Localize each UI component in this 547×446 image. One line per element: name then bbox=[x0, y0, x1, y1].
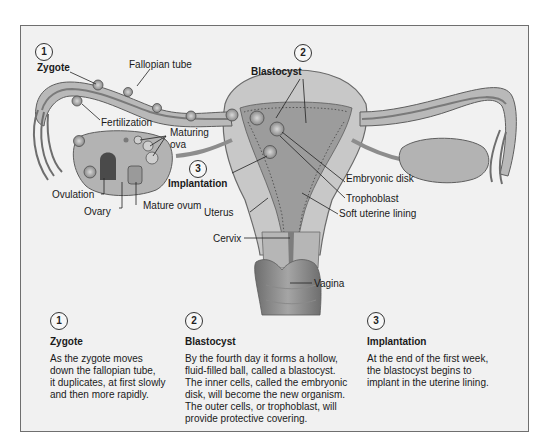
label-fallopian-tube: Fallopian tube bbox=[129, 59, 192, 70]
label-soft-uterine-lining: Soft uterine lining bbox=[339, 208, 416, 219]
stage-body: As the zygote moves down the fallopian t… bbox=[50, 353, 166, 401]
stage-title: Zygote bbox=[50, 336, 166, 347]
stage-number-2: 2 bbox=[185, 312, 203, 330]
stage-description-blastocyst: 2 Blastocyst By the fourth day it forms … bbox=[185, 312, 347, 425]
stage-number-1: 1 bbox=[50, 312, 68, 330]
stage-number-3: 3 bbox=[367, 312, 385, 330]
label-ovulation: Ovulation bbox=[52, 189, 94, 200]
stage-description-zygote: 1 Zygote As the zygote moves down the fa… bbox=[50, 312, 166, 401]
stage-marker-3: 3 bbox=[189, 160, 207, 178]
stage-marker-1: 1 bbox=[35, 43, 53, 61]
label-implantation: Implantation bbox=[168, 178, 227, 189]
label-ovary: Ovary bbox=[84, 206, 111, 217]
stage-title: Implantation bbox=[367, 336, 489, 347]
label-trophoblast: Trophoblast bbox=[346, 193, 398, 204]
label-cervix: Cervix bbox=[213, 233, 241, 244]
stage-description-implantation: 3 Implantation At the end of the first w… bbox=[367, 312, 489, 389]
label-ova: ova bbox=[170, 139, 186, 150]
label-vagina: Vagina bbox=[314, 278, 344, 289]
stage-marker-2: 2 bbox=[294, 44, 312, 62]
left-ovary bbox=[73, 131, 172, 196]
vagina-shape bbox=[255, 260, 321, 315]
label-zygote: Zygote bbox=[37, 62, 70, 73]
stage-body: At the end of the first week, the blasto… bbox=[367, 353, 489, 389]
stage-body: By the fourth day it forms a hollow, flu… bbox=[185, 353, 347, 425]
label-mature-ovum: Mature ovum bbox=[143, 200, 201, 211]
stage-title: Blastocyst bbox=[185, 336, 347, 347]
label-uterus: Uterus bbox=[204, 207, 233, 218]
label-maturing: Maturing bbox=[170, 127, 209, 138]
label-blastocyst: Blastocyst bbox=[251, 66, 302, 77]
label-fertilization: Fertilization bbox=[101, 117, 152, 128]
label-embryonic-disk: Embryonic disk bbox=[346, 173, 414, 184]
